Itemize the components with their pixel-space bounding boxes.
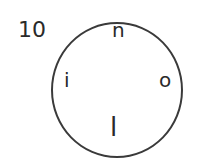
letter-bottom: l (110, 116, 117, 138)
item-number: 10 (18, 18, 46, 42)
letter-left: i (64, 69, 70, 91)
letter-right: o (159, 69, 171, 91)
letter-top: n (112, 19, 125, 41)
